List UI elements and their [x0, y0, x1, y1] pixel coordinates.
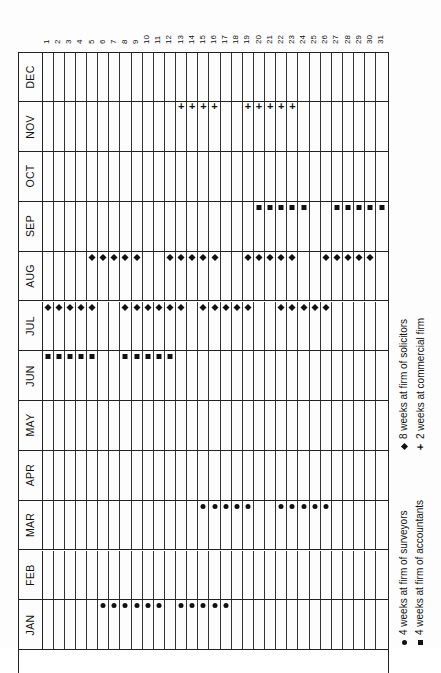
day-cell: [265, 252, 276, 301]
diamond-icon: [255, 254, 262, 261]
legend-item-commercial: +2 weeks at commercial firm: [414, 318, 426, 452]
day-cell: [209, 501, 220, 550]
day-cell: [165, 152, 176, 201]
day-cell: [143, 451, 154, 500]
month-name: NOV: [24, 115, 36, 139]
day-cell: [154, 501, 165, 550]
day-cell: [332, 401, 343, 450]
dot-icon: [190, 603, 195, 608]
diamond-icon: [200, 303, 207, 310]
square-icon: [379, 205, 384, 210]
day-cell: [287, 551, 298, 600]
day-cell: [321, 202, 332, 251]
day-cell: [343, 451, 354, 500]
day-cell: [43, 202, 54, 251]
day-cell: [187, 202, 198, 251]
square-icon: [257, 205, 262, 210]
day-cell: [310, 53, 321, 102]
day-cell: [120, 501, 131, 550]
day-cell: [243, 302, 254, 351]
day-number: 14: [188, 35, 196, 44]
day-cell: [276, 451, 287, 500]
square-icon: [78, 354, 83, 359]
day-cell: [209, 451, 220, 500]
day-cells: [43, 152, 388, 201]
square-icon: [334, 205, 339, 210]
square-icon: [156, 354, 161, 359]
day-cell: [65, 351, 76, 400]
day-cell: [365, 351, 376, 400]
day-cell: [321, 551, 332, 600]
day-cell: +: [187, 102, 198, 151]
day-cell: [187, 451, 198, 500]
month-row-feb: FEB: [19, 551, 388, 601]
day-cell: [109, 252, 120, 301]
day-cell: [343, 551, 354, 600]
day-label: 25: [309, 22, 320, 44]
day-cell: [65, 451, 76, 500]
day-cell: [310, 351, 321, 400]
day-cell: [232, 252, 243, 301]
month-name: OCT: [24, 165, 36, 188]
legend-item-surveyors: 4 weeks at firm of surveyors: [398, 511, 409, 648]
day-cell: [143, 302, 154, 351]
diamond-icon: [144, 303, 151, 310]
plus-icon: +: [414, 442, 426, 452]
day-cell: [176, 152, 187, 201]
day-cell: [221, 600, 232, 649]
day-cell: [54, 351, 65, 400]
day-cell: [376, 302, 387, 351]
diamond-icon: [178, 254, 185, 261]
day-number: 4: [76, 40, 84, 44]
day-cell: [243, 202, 254, 251]
day-cell: [176, 252, 187, 301]
day-cell: [65, 501, 76, 550]
day-cell: [143, 152, 154, 201]
month-name: APR: [24, 464, 36, 487]
diamond-icon: [367, 254, 374, 261]
plus-icon: +: [211, 102, 217, 111]
day-label: 11: [153, 22, 164, 44]
day-cell: [65, 252, 76, 301]
day-cell: [254, 600, 265, 649]
day-cell: [298, 451, 309, 500]
dot-icon: [245, 504, 250, 509]
month-row-jul: JUL: [19, 302, 388, 352]
day-cell: [365, 152, 376, 201]
day-number: 20: [255, 35, 263, 44]
day-cell: [254, 302, 265, 351]
day-cell: [198, 202, 209, 251]
day-cell: [365, 302, 376, 351]
day-cell: [310, 401, 321, 450]
day-cell: [165, 202, 176, 251]
month-row-sep: SEP: [19, 202, 388, 252]
diamond-icon: [345, 254, 352, 261]
day-label: 3: [64, 22, 75, 44]
day-cell: [343, 152, 354, 201]
day-cell: [165, 252, 176, 301]
day-cell: [143, 102, 154, 151]
day-cell: [221, 551, 232, 600]
day-cell: [187, 351, 198, 400]
day-cell: [198, 53, 209, 102]
day-cell: [254, 451, 265, 500]
diamond-icon: [155, 303, 162, 310]
day-label: 7: [108, 22, 119, 44]
day-cell: [287, 351, 298, 400]
day-cell: [310, 152, 321, 201]
day-cell: [365, 501, 376, 550]
day-cell: [120, 302, 131, 351]
day-cell: [154, 551, 165, 600]
day-cell: [143, 351, 154, 400]
day-cell: [276, 501, 287, 550]
dot-icon: [290, 504, 295, 509]
day-cell: [298, 53, 309, 102]
month-row-aug: AUG: [19, 252, 388, 302]
day-cell: [120, 152, 131, 201]
day-cell: [343, 401, 354, 450]
day-cell: [376, 152, 387, 201]
diamond-icon: [166, 254, 173, 261]
day-cell: [265, 501, 276, 550]
day-number: 2: [54, 40, 62, 44]
day-cell: [109, 302, 120, 351]
